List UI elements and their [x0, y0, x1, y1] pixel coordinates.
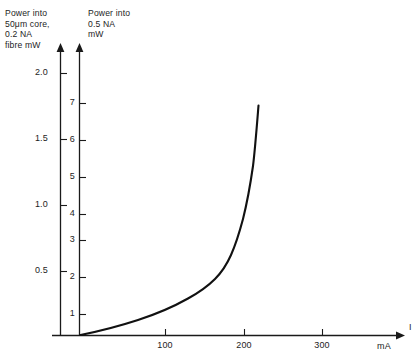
right-axis-arrow-icon [76, 43, 84, 52]
y-right-tick-6: 6 [63, 134, 75, 144]
x-axis-unit-label: mA [377, 341, 391, 351]
y-right-tick-5: 5 [63, 171, 75, 181]
x-tick-100: 100 [148, 340, 182, 350]
y-left-tick-1_5: 1.5 [14, 133, 48, 143]
x-axis-arrow-icon [396, 332, 405, 340]
y-right-tick-7: 7 [63, 97, 75, 107]
left-y-axis [57, 43, 67, 336]
y-right-tick-1: 1 [63, 308, 75, 318]
y-left-tick-0_5: 0.5 [14, 265, 48, 275]
x-tick-200: 200 [227, 340, 261, 350]
x-tick-300: 300 [305, 340, 339, 350]
y-right-tick-2: 2 [63, 271, 75, 281]
y-right-tick-3: 3 [63, 234, 75, 244]
figure-chart: Power into 50μm core, 0.2 NA fibre mW Po… [0, 0, 419, 362]
data-curve [81, 106, 259, 336]
y-left-tick-2: 2.0 [14, 67, 48, 77]
x-axis-symbol-label: I [409, 322, 412, 332]
y-right-tick-4: 4 [63, 208, 75, 218]
right-y-axis [76, 43, 86, 336]
y-left-tick-1: 1.0 [14, 199, 48, 209]
left-axis-arrow-icon [57, 43, 65, 52]
